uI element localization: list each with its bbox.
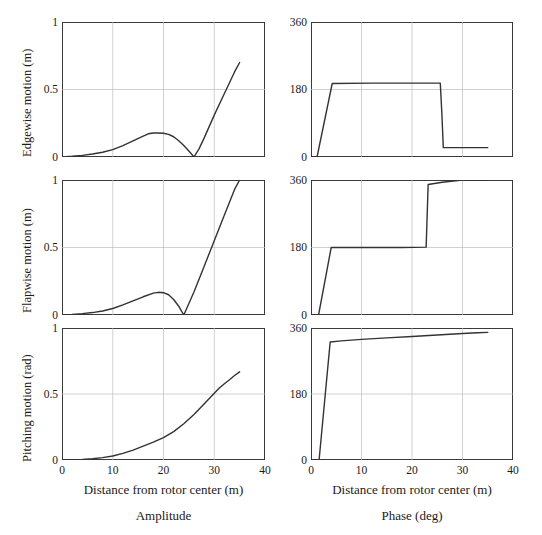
y-tick-label-amp-top-r1: 1 [36, 17, 58, 29]
x-tick-label: 20 [397, 465, 427, 477]
y-tick-label-amp-mid-r2: 0.5 [30, 242, 58, 254]
x-axis-title-amplitude: Distance from rotor center (m) [62, 482, 265, 498]
x-tick-label: 0 [296, 465, 326, 477]
y-tick-label-ph-mid-r3: 180 [279, 389, 307, 401]
x-tick-label: 10 [98, 465, 128, 477]
plot-canvas-edgewise-phase [311, 22, 513, 157]
y-tick-label-amp-bot-r1: 0 [36, 152, 58, 164]
x-axis-title-phase: Distance from rotor center (m) [311, 482, 513, 498]
y-tick-label-amp-top-r2: 1 [36, 175, 58, 187]
x-tick-label: 40 [250, 465, 280, 477]
column-caption-amplitude: Amplitude [62, 508, 265, 524]
plot-canvas-edgewise-amplitude [62, 22, 265, 157]
x-tick-label: 30 [448, 465, 478, 477]
data-line [311, 83, 488, 157]
y-tick-label-amp-bot-r2: 0 [36, 310, 58, 322]
y-tick-label-amp-mid-r3: 0.5 [30, 389, 58, 401]
x-tick-label: 0 [47, 465, 77, 477]
x-tick-label: 20 [149, 465, 179, 477]
y-tick-label-ph-top-r3: 360 [279, 323, 307, 335]
y-tick-label-amp-mid-r1: 0.5 [30, 84, 58, 96]
y-axis-title-flapwise: Flapwise motion (m) [20, 208, 35, 313]
data-line [62, 372, 240, 460]
plot-pitching-phase [311, 328, 513, 460]
y-tick-label-ph-mid-r1: 180 [279, 84, 307, 96]
plot-canvas-pitching-phase [311, 328, 513, 460]
plot-canvas-flapwise-amplitude [62, 180, 265, 315]
x-tick-label: 30 [199, 465, 229, 477]
y-tick-label-ph-mid-r2: 180 [279, 242, 307, 254]
y-axis-title-edgewise: Edgewise motion (m) [20, 49, 35, 157]
plot-flapwise-amplitude [62, 180, 265, 315]
data-line [311, 332, 488, 460]
y-tick-label-amp-top-r3: 1 [36, 323, 58, 335]
plot-canvas-flapwise-phase [311, 180, 513, 315]
y-tick-label-ph-bot-r1: 0 [285, 152, 307, 164]
column-caption-phase: Phase (deg) [311, 508, 513, 524]
data-line [62, 63, 240, 158]
plot-pitching-amplitude [62, 328, 265, 460]
plot-canvas-pitching-amplitude [62, 328, 265, 460]
y-tick-label-ph-bot-r2: 0 [285, 310, 307, 322]
plot-edgewise-amplitude [62, 22, 265, 157]
y-tick-label-ph-top-r2: 360 [279, 175, 307, 187]
y-axis-title-pitching: Pitching motion (rad) [20, 354, 35, 462]
mode-shape-figure: Edgewise motion (m) 1 0.5 0 360 180 0 Fl… [0, 0, 542, 535]
plot-flapwise-phase [311, 180, 513, 315]
x-tick-label: 10 [347, 465, 377, 477]
plot-edgewise-phase [311, 22, 513, 157]
x-tick-label: 40 [498, 465, 528, 477]
y-tick-label-ph-top-r1: 360 [279, 17, 307, 29]
